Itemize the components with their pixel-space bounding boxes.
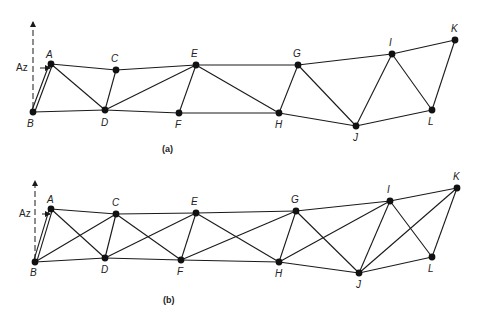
node-D (102, 255, 109, 262)
member-IL (392, 54, 432, 110)
node-label-C: C (112, 197, 120, 208)
node-label-H: H (275, 268, 283, 279)
member-GJ (296, 211, 359, 273)
node-A (48, 206, 55, 213)
member-AB (33, 209, 49, 262)
truss-figure-a: AzABCDEFGHIJKL(a) (16, 22, 459, 154)
truss-figure-b: AzABCDEFGHIJKL(b) (19, 171, 461, 305)
node-A (48, 61, 55, 68)
node-F (176, 110, 183, 117)
member-DF (105, 258, 181, 260)
member-AC (51, 64, 116, 70)
member-DE (105, 213, 196, 258)
member-IL (390, 201, 432, 257)
node-label-B: B (30, 267, 37, 278)
node-B (30, 109, 37, 116)
node-label-H: H (275, 119, 283, 130)
member-FG (181, 211, 296, 260)
node-B (32, 259, 39, 266)
member-EF (181, 213, 196, 260)
node-F (178, 257, 185, 264)
member-BC (35, 214, 116, 262)
member-AB (37, 209, 53, 262)
node-D (102, 107, 109, 114)
node-label-A: A (46, 194, 54, 205)
member-IJ (359, 201, 390, 273)
member-HJ (279, 262, 359, 273)
member-GI (296, 201, 390, 211)
node-label-J: J (352, 132, 359, 143)
node-K (452, 37, 459, 44)
member-EH (196, 65, 279, 113)
member-AD (51, 64, 105, 110)
node-H (276, 110, 283, 117)
member-AB (34, 65, 52, 113)
node-I (387, 198, 394, 205)
node-label-G: G (291, 194, 299, 205)
figure-caption: (b) (163, 295, 175, 305)
node-C (113, 67, 120, 74)
member-DF (105, 110, 179, 113)
node-label-D: D (101, 117, 108, 128)
member-GJ (298, 65, 356, 126)
node-H (276, 259, 283, 266)
node-I (389, 51, 396, 58)
node-L (429, 107, 436, 114)
member-AD (51, 209, 105, 258)
member-EH (196, 213, 279, 262)
az-label: Az (19, 208, 31, 219)
member-JL (356, 110, 432, 126)
node-K (454, 185, 461, 192)
member-CD (105, 214, 116, 258)
member-IK (390, 188, 457, 201)
node-label-F: F (175, 119, 182, 130)
member-JL (359, 257, 432, 273)
figure-caption: (a) (162, 144, 173, 154)
node-E (193, 210, 200, 217)
node-label-D: D (101, 264, 108, 275)
node-label-A: A (45, 49, 53, 60)
node-J (356, 270, 363, 277)
member-CE (116, 213, 196, 214)
truss-diagram: AzABCDEFGHIJKL(a) AzABCDEFGHIJKL(b) (0, 0, 480, 316)
member-JK (359, 188, 457, 273)
node-E (193, 62, 200, 69)
node-label-K: K (451, 23, 459, 34)
member-IJ (356, 54, 392, 126)
node-label-K: K (453, 171, 461, 182)
node-label-E: E (191, 48, 198, 59)
member-AC (51, 209, 116, 214)
member-CE (116, 65, 196, 70)
member-BD (35, 258, 105, 262)
member-BD (33, 110, 105, 112)
node-label-J: J (355, 279, 362, 290)
node-C (113, 211, 120, 218)
node-L (429, 254, 436, 261)
node-label-E: E (191, 196, 198, 207)
member-IK (392, 40, 455, 54)
member-AB (32, 63, 50, 111)
node-G (295, 62, 302, 69)
node-label-I: I (389, 37, 392, 48)
node-label-I: I (387, 184, 390, 195)
node-label-B: B (27, 118, 34, 129)
member-HJ (279, 113, 356, 126)
member-GH (279, 65, 298, 113)
node-label-L: L (428, 263, 434, 274)
member-FH (181, 260, 279, 262)
member-GI (298, 54, 392, 65)
node-label-C: C (111, 53, 119, 64)
node-J (353, 123, 360, 130)
az-label: Az (16, 62, 28, 73)
member-CD (105, 70, 116, 110)
node-label-F: F (177, 266, 184, 277)
node-label-G: G (293, 48, 301, 59)
member-EG (196, 211, 296, 213)
member-KL (432, 40, 455, 110)
node-label-L: L (428, 116, 434, 127)
node-G (293, 208, 300, 215)
